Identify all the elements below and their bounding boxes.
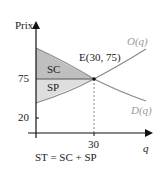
formula: ST = SC + SP bbox=[35, 152, 97, 163]
supply-label: O(q) bbox=[127, 36, 148, 47]
sp-region bbox=[36, 79, 94, 103]
sp-label: SP bbox=[47, 82, 59, 93]
x-axis-label: q bbox=[143, 143, 149, 154]
demand-label: D(q) bbox=[131, 105, 152, 116]
tick-label-20: 20 bbox=[18, 112, 29, 123]
tick-label-30: 30 bbox=[88, 139, 99, 150]
y-axis-label: Prix bbox=[15, 20, 33, 31]
equilibrium-point bbox=[92, 77, 96, 81]
tick-label-75: 75 bbox=[18, 73, 29, 84]
sc-label: SC bbox=[47, 64, 60, 75]
x-axis-arrow-icon bbox=[145, 129, 153, 137]
equilibrium-label: E(30, 75) bbox=[79, 52, 121, 63]
